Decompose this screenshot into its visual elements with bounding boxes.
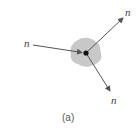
incoming-neutron-label: n	[24, 37, 30, 49]
outgoing-neutron-label-upper: n	[125, 6, 131, 18]
interaction-point-dot	[83, 50, 88, 55]
outgoing-neutron-label-lower: n	[111, 94, 117, 106]
outgoing-neutron-arrow-upper	[86, 18, 123, 53]
neutron-diagram: n n n (a)	[0, 0, 138, 130]
figure-caption: (a)	[62, 112, 74, 123]
